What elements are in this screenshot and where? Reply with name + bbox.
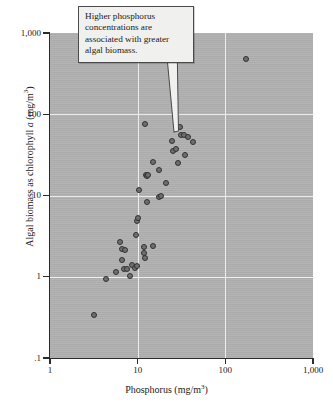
gridline-horizontal [50,277,313,278]
data-point [142,121,148,127]
y-axis-tick-label: 1,000 [21,29,41,38]
data-point [145,172,151,178]
data-point [133,232,139,238]
y-axis-tick [43,195,49,196]
y-axis-line [49,32,50,359]
y-axis-title-sup: 3 [22,90,30,94]
data-point [182,152,188,158]
x-axis-tick [49,358,50,364]
data-point [144,199,150,205]
data-point [150,159,156,165]
annotation-text: Higher phosphorus concentrations are ass… [85,11,169,55]
data-point [91,312,97,318]
data-point [173,146,179,152]
y-axis-tick [43,32,49,33]
x-axis-tick [312,358,313,364]
data-point [122,247,128,253]
data-point [103,276,109,282]
y-axis-title-post: (mg/m [24,93,35,122]
data-point [150,243,156,249]
data-point [169,138,175,144]
y-axis-tick-label: .1 [34,354,41,363]
data-point [117,239,123,245]
x-axis-line [49,358,314,359]
y-axis-title-end: ) [24,86,35,89]
x-axis-tick-label: 100 [200,366,250,375]
x-axis-title: Phosphorus (mg/m3) [0,384,333,395]
data-point [158,193,164,199]
data-point [136,187,142,193]
data-point [127,273,133,279]
x-axis-tick-label: 10 [113,366,163,375]
x-axis-title-post: ) [205,384,208,395]
x-axis-tick-label: 1,000 [288,366,333,375]
x-axis-tick-label: 1 [25,366,75,375]
x-axis-title-pre: Phosphorus (mg/m [125,384,201,395]
data-point [142,255,148,261]
data-point [119,257,125,263]
callout-pointer-icon [150,60,198,132]
y-axis-title-italic: a [24,122,35,127]
y-axis-tick [43,114,49,115]
y-axis-title: Algal biomass as chlorophyll a (mg/m3) [24,42,35,292]
scatter-plot-figure: .11101001,0001101001,000 Phosphorus (mg/… [0,0,333,413]
y-axis-tick-label: 1 [37,272,42,281]
data-point [243,56,249,62]
data-point [163,180,169,186]
gridline-horizontal [50,196,313,197]
data-point [156,167,162,173]
data-point [134,263,140,269]
data-point [175,160,181,166]
x-axis-tick [137,358,138,364]
gridline-vertical [138,33,139,358]
x-axis-tick [225,358,226,364]
annotation-callout: Higher phosphorus concentrations are ass… [78,6,194,63]
y-axis-title-pre: Algal biomass as chlorophyll [24,127,35,246]
data-point [135,215,141,221]
data-point [113,269,119,275]
y-axis-tick [43,357,49,358]
y-axis-tick [43,276,49,277]
data-point [190,139,196,145]
gridline-vertical [225,33,226,358]
